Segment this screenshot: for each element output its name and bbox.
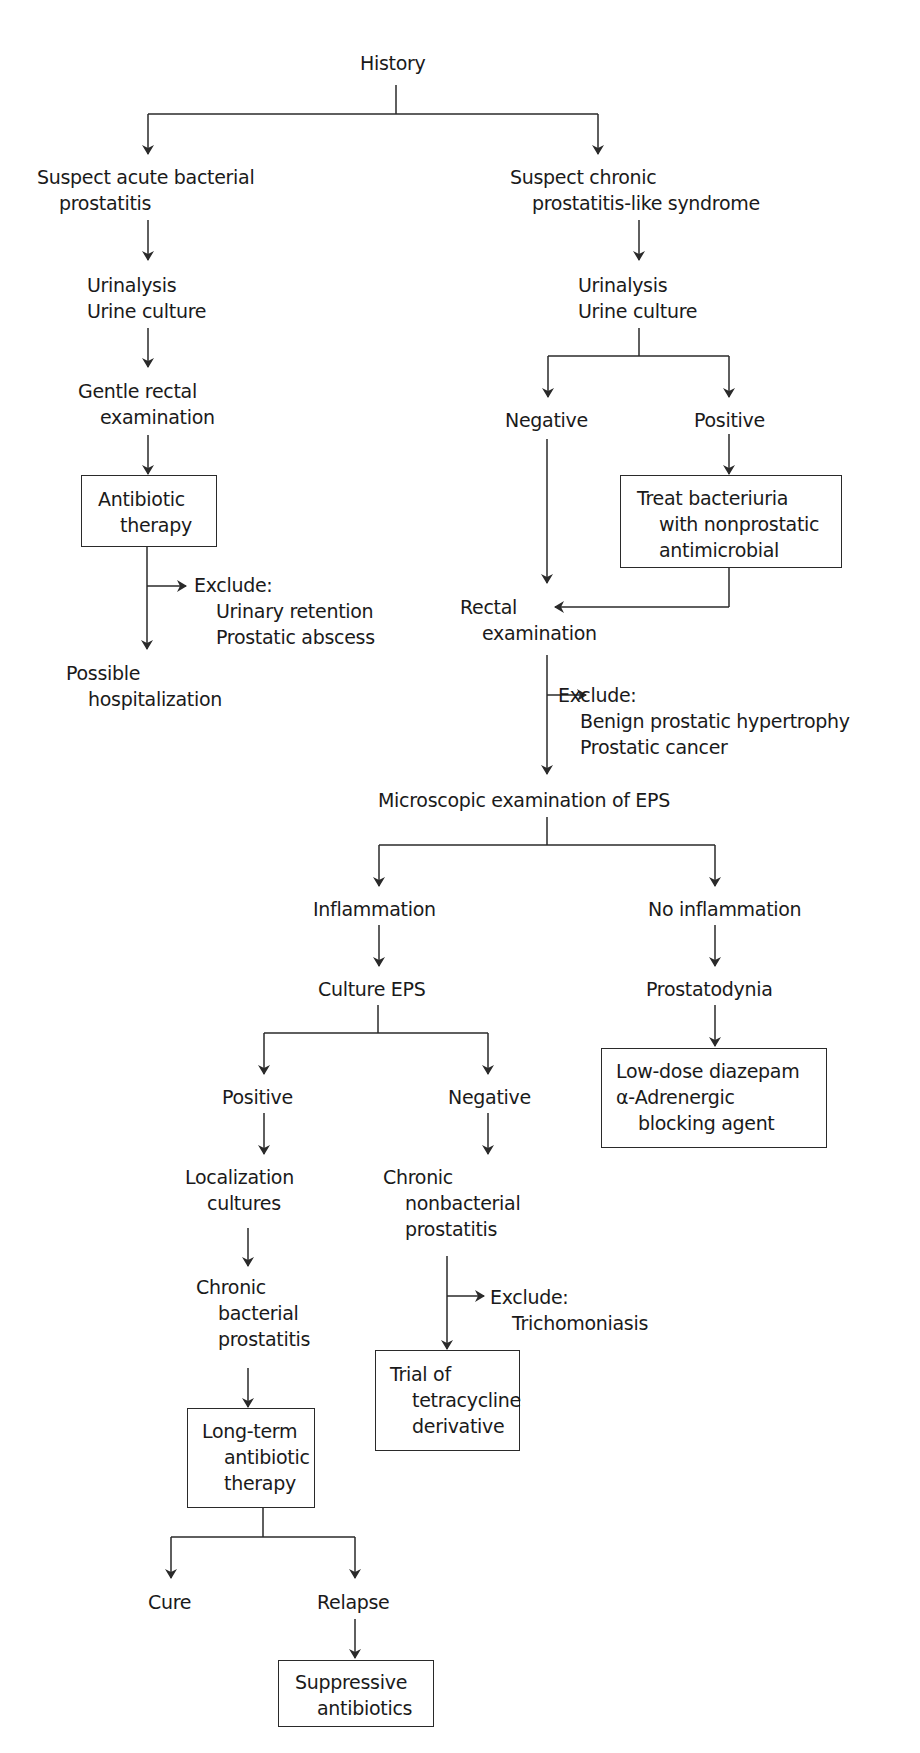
node-microscopic-eps: Microscopic examination of EPS	[378, 787, 670, 813]
node-chronic-nonbacterial: Chronic nonbacterial prostatitis	[383, 1164, 520, 1242]
node-urinalysis-positive: Positive	[694, 407, 765, 433]
node-acute-urinalysis: Urinalysis Urine culture	[87, 272, 206, 324]
node-chronic-bacterial: Chronic bacterial prostatitis	[196, 1274, 310, 1352]
node-rectal-exclude: Exclude: Benign prostatic hypertrophy Pr…	[558, 682, 850, 760]
flowchart: History Suspect acute bacterial prostati…	[0, 0, 920, 1753]
node-relapse: Relapse	[317, 1589, 390, 1615]
node-culture-negative: Negative	[448, 1084, 531, 1110]
node-antibiotic-therapy: Antibiotic therapy	[81, 475, 217, 547]
node-nonbacterial-exclude: Exclude: Trichomoniasis	[490, 1284, 648, 1336]
node-diazepam-blocking-agent: Low-dose diazepam α-Adrenergic blocking …	[601, 1048, 827, 1148]
node-treat-bacteriuria: Treat bacteriuria with nonprostatic anti…	[620, 475, 842, 568]
connector-layer	[0, 0, 920, 1753]
node-suspect-chronic-syndrome: Suspect chronic prostatitis-like syndrom…	[510, 164, 760, 216]
node-urinalysis-negative: Negative	[505, 407, 588, 433]
node-localization-cultures: Localization cultures	[185, 1164, 294, 1216]
node-acute-exclude: Exclude: Urinary retention Prostatic abs…	[194, 572, 375, 650]
node-inflammation: Inflammation	[313, 896, 436, 922]
node-no-inflammation: No inflammation	[648, 896, 801, 922]
node-chronic-urinalysis: Urinalysis Urine culture	[578, 272, 697, 324]
node-rectal-examination: Rectal examination	[460, 594, 597, 646]
node-longterm-antibiotic: Long-term antibiotic therapy	[187, 1408, 315, 1508]
node-culture-positive: Positive	[222, 1084, 293, 1110]
node-prostatodynia: Prostatodynia	[646, 976, 773, 1002]
node-history: History	[360, 50, 426, 76]
node-tetracycline-trial: Trial of tetracycline derivative	[375, 1350, 520, 1451]
node-suspect-acute-prostatitis: Suspect acute bacterial prostatitis	[37, 164, 254, 216]
node-suppressive-antibiotics: Suppressive antibiotics	[278, 1660, 434, 1727]
node-possible-hospitalization: Possible hospitalization	[66, 660, 222, 712]
node-gentle-rectal-exam: Gentle rectal examination	[78, 378, 215, 430]
node-culture-eps: Culture EPS	[318, 976, 425, 1002]
node-cure: Cure	[148, 1589, 191, 1615]
